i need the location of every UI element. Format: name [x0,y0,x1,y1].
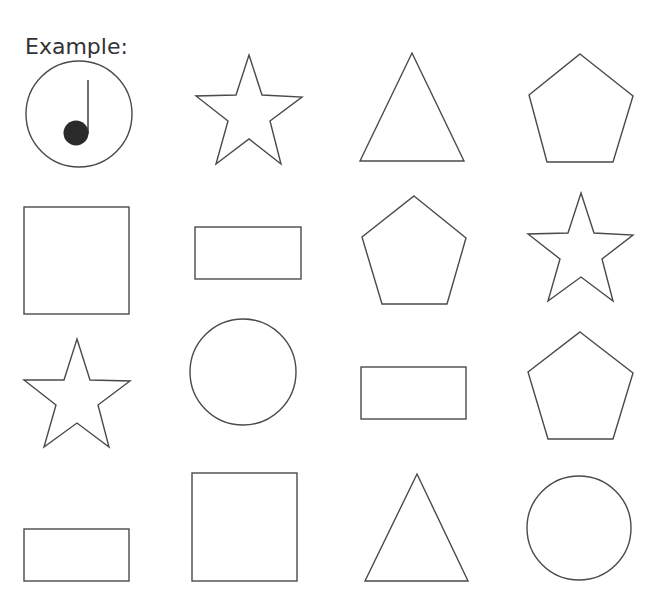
pentagon-shape-r3c4 [528,332,633,439]
rectangle-shape-r3c3 [361,367,466,419]
circle-shape-r1c1 [26,61,132,167]
triangle-shape-r1c3 [360,53,464,161]
rectangle-shape-r2c2 [195,227,301,279]
rectangle-shape-r4c1 [24,529,129,581]
example-circle-with-note [26,61,132,167]
pentagon-shape-r1c4 [529,54,633,162]
triangle-shape-r4c3 [365,474,468,581]
square-shape-r2c1 [24,207,129,314]
circle-shape-r3c2 [190,319,296,425]
star-shape-r2c4 [528,193,633,301]
star-shape-r3c1 [24,339,130,447]
pentagon-shape-r2c3 [362,196,466,304]
square-shape-r4c2 [192,473,297,581]
quarter-note-icon [64,121,89,146]
star-shape-r1c2 [196,55,302,164]
circle-shape-r4c4 [527,476,631,580]
